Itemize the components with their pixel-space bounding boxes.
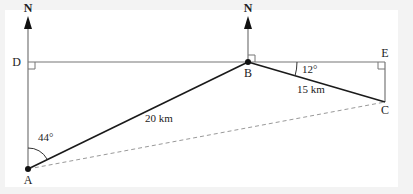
label-C: C — [381, 103, 389, 117]
length-label-BC: 15 km — [297, 83, 325, 95]
north-arrow-icon — [24, 16, 32, 29]
point-A — [25, 166, 31, 172]
label-E: E — [381, 46, 388, 60]
angle-arc-A — [28, 148, 47, 159]
label-B: B — [244, 66, 252, 80]
segment-AC-dashed — [28, 102, 385, 169]
right-angle-D — [28, 62, 35, 69]
angle-label-B: 12° — [302, 63, 317, 75]
north-label-B: N — [244, 1, 253, 15]
north-arrow-icon — [244, 16, 252, 29]
length-label-AB: 20 km — [145, 112, 173, 124]
angle-arc-B — [295, 62, 297, 76]
angle-label-A: 44° — [38, 131, 53, 143]
label-A: A — [24, 173, 33, 187]
right-angle-E — [378, 62, 385, 69]
north-label-A: N — [24, 1, 33, 15]
point-B — [245, 59, 251, 65]
segment-AB — [28, 62, 248, 169]
bearing-diagram: N N A B C D E 44° 12° 20 km 15 km — [0, 0, 413, 194]
label-D: D — [12, 55, 21, 69]
